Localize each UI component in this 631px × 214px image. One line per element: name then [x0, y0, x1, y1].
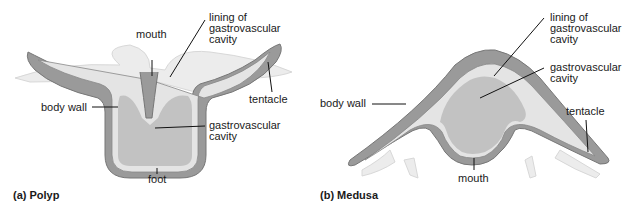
medusa-label-lining: lining of gastrovascular cavity	[550, 12, 622, 45]
polyp-label-lining: lining of gastrovascular cavity	[209, 12, 281, 45]
polyp-label-body-wall: body wall	[41, 102, 87, 113]
medusa-label-body-wall: body wall	[320, 98, 366, 109]
polyp-label-cavity: gastrovascular cavity	[209, 120, 281, 142]
medusa-label-tentacle: tentacle	[566, 106, 605, 117]
medusa-label-cavity: gastrovascular cavity	[550, 62, 622, 84]
medusa-label-mouth: mouth	[458, 173, 489, 184]
polyp-label-foot: foot	[148, 174, 166, 185]
medusa-caption: (b) Medusa	[320, 189, 378, 201]
diagram-canvas	[0, 0, 631, 214]
polyp-label-mouth: mouth	[136, 29, 167, 40]
polyp-caption: (a) Polyp	[13, 189, 59, 201]
polyp-label-tentacle: tentacle	[249, 94, 288, 105]
